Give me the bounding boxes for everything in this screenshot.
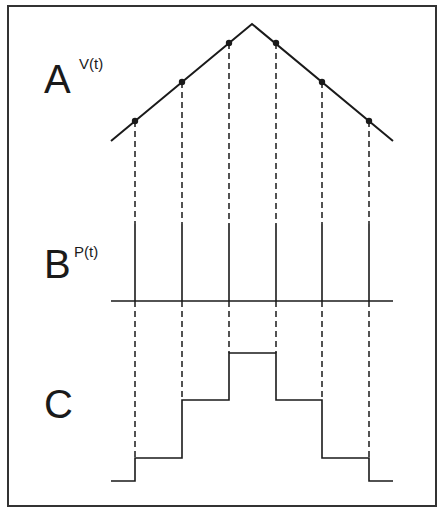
sample-point-dot [273,40,279,46]
panel-label-c: C [44,382,73,426]
sample-point-dot [226,40,232,46]
panel-label-b: B [44,242,71,286]
panel-label-a: A [44,57,71,101]
figure-frame [8,6,436,506]
signal-vt-line [111,24,393,141]
function-label-vt: V(t) [79,55,103,72]
function-label-pt: P(t) [74,243,98,260]
sample-point-dot [319,79,325,85]
sample-point-dot [179,79,185,85]
diagram-shapes [111,24,393,481]
sample-point-dot [132,118,138,124]
sampling-diagram: A V(t) B P(t) C [0,0,443,515]
sample-point-dot [366,118,372,124]
staircase-hold-signal [111,353,393,481]
